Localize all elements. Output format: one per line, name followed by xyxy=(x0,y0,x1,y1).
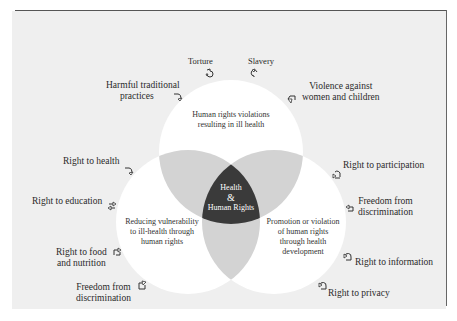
label-violence-line2: women and children xyxy=(302,92,380,103)
center-label-line3: Human Rights xyxy=(206,203,256,213)
curved-arrow-icon xyxy=(173,92,183,102)
label-torture: Torture xyxy=(188,56,213,67)
label-right-freedom-line1: Freedom from xyxy=(358,196,413,207)
label-right-to-health: Right to health xyxy=(63,156,119,167)
curved-arrow-icon xyxy=(137,280,147,290)
label-left-freedom: Freedom from discrimination xyxy=(76,282,131,304)
left-circle-label: Reducing vulnerability to ill-health thr… xyxy=(117,217,207,247)
right-circle-line4: development xyxy=(258,247,348,257)
center-label-line2: & xyxy=(206,193,256,203)
label-left-freedom-line1: Freedom from xyxy=(76,282,131,293)
curved-arrow-icon xyxy=(332,170,342,180)
curved-arrow-icon xyxy=(345,204,355,214)
label-violence: Violence against women and children xyxy=(302,81,380,103)
right-circle-line2: of human rights xyxy=(258,227,348,237)
label-right-to-information: Right to information xyxy=(355,257,433,268)
right-circle-line3: through health xyxy=(258,237,348,247)
curved-arrow-icon xyxy=(249,68,259,78)
curved-arrow-icon xyxy=(107,201,117,211)
label-right-to-food: Right to food and nutrition xyxy=(56,247,107,269)
curved-arrow-icon xyxy=(112,247,122,257)
curved-arrow-icon xyxy=(343,253,353,263)
top-circle-label: Human rights violations resulting in ill… xyxy=(181,110,281,130)
label-harmful-line1: Harmful traditional xyxy=(106,80,180,91)
top-circle-line1: Human rights violations xyxy=(181,110,281,120)
center-label: Health & Human Rights xyxy=(206,183,256,213)
right-circle-label: Promotion or violation of human rights t… xyxy=(258,217,348,257)
left-circle-line2: to ill-health through xyxy=(117,227,207,237)
curved-arrow-icon xyxy=(318,282,328,292)
right-circle-line1: Promotion or violation xyxy=(258,217,348,227)
label-food-line2: and nutrition xyxy=(56,258,107,269)
label-right-to-privacy: Right to privacy xyxy=(328,288,390,299)
label-harmful-practices: Harmful traditional practices xyxy=(106,80,180,102)
left-circle-line3: human rights xyxy=(117,237,207,247)
label-harmful-line2: practices xyxy=(94,91,180,102)
label-left-freedom-line2: discrimination xyxy=(76,293,131,304)
curved-arrow-icon xyxy=(124,166,134,176)
label-food-line1: Right to food xyxy=(56,247,107,258)
left-circle-line1: Reducing vulnerability xyxy=(117,217,207,227)
label-slavery: Slavery xyxy=(248,56,274,67)
label-right-to-participation: Right to participation xyxy=(343,160,424,171)
curved-arrow-icon xyxy=(287,94,297,104)
label-right-freedom: Freedom from discrimination xyxy=(358,196,413,218)
curved-arrow-icon xyxy=(205,68,215,78)
label-right-freedom-line2: discrimination xyxy=(358,207,413,218)
label-violence-line1: Violence against xyxy=(302,81,380,92)
top-circle-line2: resulting in ill health xyxy=(181,120,281,130)
label-right-to-education: Right to education xyxy=(32,196,102,207)
